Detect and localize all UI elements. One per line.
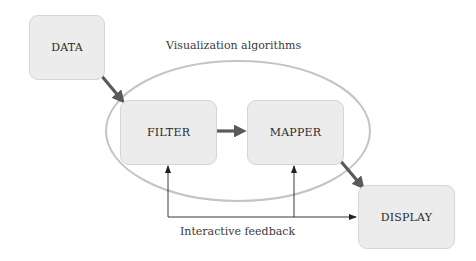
data-node-label: DATA [51, 41, 83, 54]
feedback-label: Interactive feedback [180, 225, 295, 238]
mapper-node-label: MAPPER [270, 126, 322, 139]
diagram-canvas: DATA Visualization algorithms FILTER MAP… [0, 0, 476, 261]
arrow-data-to-filter [100, 74, 121, 99]
display-node: DISPLAY [358, 185, 455, 249]
mapper-node: MAPPER [247, 100, 344, 165]
algorithms-group-label: Visualization algorithms [166, 39, 301, 52]
display-node-label: DISPLAY [381, 211, 433, 224]
filter-node: FILTER [120, 100, 217, 165]
filter-node-label: FILTER [147, 126, 190, 139]
data-node: DATA [29, 15, 105, 80]
